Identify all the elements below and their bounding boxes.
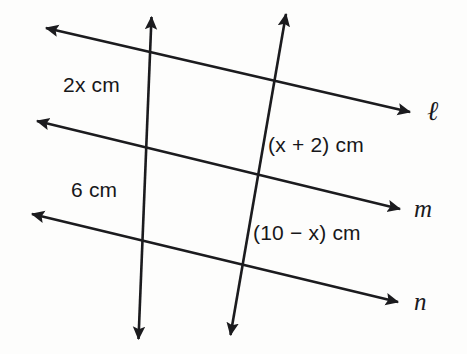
line-name-n: n (414, 288, 427, 316)
geometry-figure: 2x cm 6 cm (x + 2) cm (10 − x) cm ℓ m n (0, 0, 467, 354)
geometry-canvas (0, 0, 467, 354)
parallel-line-l (46, 28, 410, 112)
line-name-m: m (414, 195, 432, 223)
right-transversal (231, 14, 287, 335)
segment-label-upper-right: (x + 2) cm (268, 133, 364, 157)
segment-label-lower-left: 6 cm (71, 178, 117, 202)
left-transversal (139, 17, 152, 339)
segment-label-upper-left: 2x cm (63, 73, 120, 97)
line-name-l: ℓ (427, 96, 438, 127)
segment-label-lower-right: (10 − x) cm (253, 221, 361, 245)
